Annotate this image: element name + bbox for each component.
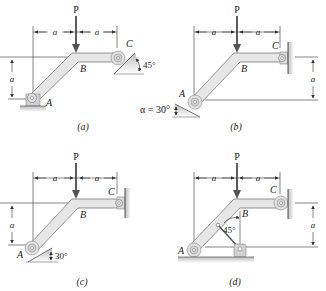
ground [178, 257, 254, 263]
caption-c: (c) [76, 276, 88, 288]
dimension-a-vertical: a [10, 220, 15, 230]
caption-d: (d) [229, 276, 241, 288]
bent-member [29, 199, 119, 252]
caption-a: (a) [77, 121, 89, 133]
point-b-label: B [242, 208, 248, 219]
angle-label: α = 30° [140, 104, 170, 115]
caption-b: (b) [230, 121, 242, 133]
bent-member [191, 53, 282, 106]
point-b-label: B [241, 63, 247, 74]
load-label-p: P [234, 151, 240, 162]
wall [288, 42, 294, 74]
point-b-label: B [80, 209, 86, 220]
dimension-a-right: a [95, 27, 100, 37]
point-c-label: C [270, 184, 277, 195]
dimension-a-right: a [256, 27, 261, 37]
panel-d: a a a P 45° A B C (d) [177, 151, 318, 288]
dimension-a-left: a [53, 173, 58, 183]
point-a-label: A [45, 97, 53, 108]
dimension-a-vertical: a [10, 74, 15, 84]
dimension-a-vertical: a [311, 220, 316, 230]
dimension-a-vertical: a [311, 74, 316, 84]
angle-label: 30° [55, 251, 68, 261]
point-b-label: B [80, 63, 86, 74]
point-a-label: A [178, 88, 186, 99]
ground [20, 106, 46, 112]
load-label-p: P [73, 4, 79, 15]
angle-label: 45° [223, 225, 236, 235]
angle-label: 45° [143, 60, 156, 70]
load-label-p: P [234, 4, 240, 15]
panel-a: a a a P A B 45° C (a) [0, 4, 156, 133]
dimension-a-left: a [212, 27, 217, 37]
point-c-label: C [108, 186, 115, 197]
point-a-label: A [177, 245, 185, 256]
bent-member [29, 53, 119, 103]
point-c-label: C [272, 40, 279, 51]
dimension-a-right: a [256, 173, 261, 183]
wall [125, 188, 131, 218]
dimension-a-left: a [53, 27, 58, 37]
dimension-a-left: a [212, 173, 217, 183]
load-label-p: P [73, 151, 79, 162]
figure-canvas: a a a P A B 45° C (a) [0, 0, 326, 291]
dimension-a-right: a [95, 173, 100, 183]
point-c-label: C [126, 38, 133, 49]
panel-b: a a a P α = 30° A B C (b) [140, 4, 318, 133]
panel-c: a a a P 30° A B C (c) [0, 151, 131, 288]
wall [288, 189, 294, 219]
point-a-label: A [16, 249, 24, 260]
